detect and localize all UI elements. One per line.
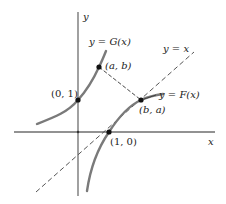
curve-F-label: y = F(x) xyxy=(158,89,200,100)
y-axis-label: y xyxy=(82,11,89,22)
x-axis-label: x xyxy=(208,136,214,147)
point-1-0-label: (1, 0) xyxy=(110,136,137,147)
point-a-b-label: (a, b) xyxy=(105,60,132,71)
point-b-a xyxy=(138,97,143,102)
inverse-functions-diagram: y x y = x y = G(x) y = F(x) (0, 1) (1, 0… xyxy=(0,0,226,204)
point-a-b xyxy=(96,64,101,69)
point-b-a-label: (b, a) xyxy=(139,104,166,115)
origin-point xyxy=(77,131,79,133)
reflection-segment xyxy=(99,67,141,100)
identity-line-label: y = x xyxy=(162,43,189,54)
curve-G-label: y = G(x) xyxy=(88,36,131,47)
point-0-1-label: (0, 1) xyxy=(51,88,78,99)
point-1-0 xyxy=(106,129,111,134)
